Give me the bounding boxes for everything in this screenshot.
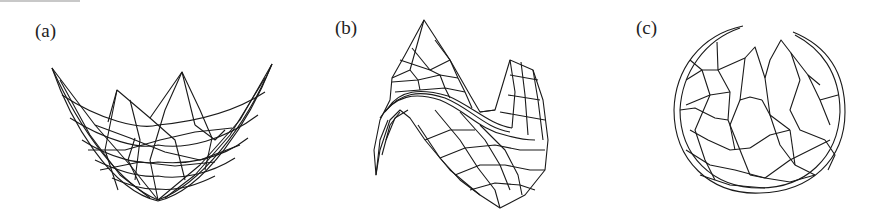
saddle-surface-mesh-figure	[300, 0, 600, 220]
panel-a: (a)	[0, 0, 300, 220]
panel-b: (b)	[300, 0, 600, 220]
sphere-mesh-figure	[590, 0, 874, 220]
panel-c: (c)	[590, 0, 874, 220]
paraboloid-mesh-figure	[0, 0, 300, 220]
